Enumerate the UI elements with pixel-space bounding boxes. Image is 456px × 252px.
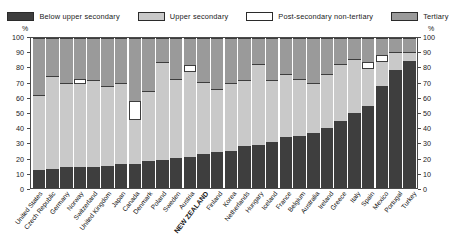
y-axis-unit-left: % [22,25,28,32]
y-tick-mark-right-90 [418,52,421,53]
segment-upper-secondary [184,71,197,157]
segment-upper-secondary [252,64,265,145]
segment-tertiary [184,38,197,65]
y-tick-left-70: 70 [4,79,24,88]
bar-korea[interactable] [225,38,238,188]
segment-tertiary [87,38,100,80]
segment-below-upper-secondary [307,133,320,189]
legend-label-tertiary: Tertiary [423,12,448,21]
bar-hungary[interactable] [252,38,265,188]
segment-upper-secondary [197,82,210,154]
bar-united-states[interactable] [33,38,46,188]
bar-italy[interactable] [348,38,361,188]
bar-turkey[interactable] [403,38,416,188]
segment-below-upper-secondary [238,146,251,188]
segment-tertiary [60,38,73,83]
segment-upper-secondary [156,62,169,160]
segment-tertiary [266,38,279,80]
segment-upper-secondary [101,86,114,166]
segment-upper-secondary [87,80,100,167]
segment-upper-secondary [211,89,224,152]
bar-belgium[interactable] [293,38,306,188]
segment-upper-secondary [129,119,142,164]
segment-upper-secondary [348,59,361,113]
segment-tertiary [252,38,265,64]
y-tick-mark-right-0 [418,189,421,190]
bar-japan[interactable] [115,38,128,188]
segment-tertiary [362,38,375,62]
segment-below-upper-secondary [101,166,114,189]
bar-australia[interactable] [307,38,320,188]
y-tick-mark-right-60 [418,98,421,99]
bar-greece[interactable] [334,38,347,188]
bar-denmark[interactable] [142,38,155,188]
segment-tertiary [129,38,142,101]
y-tick-left-60: 60 [4,94,24,103]
bar-portugal[interactable] [389,38,402,188]
x-axis-category-labels: United StatesCzech RepublicGermanyNorway… [30,190,418,252]
segment-below-upper-secondary [87,167,100,188]
bar-france[interactable] [280,38,293,188]
y-tick-mark-right-20 [418,159,421,160]
bar-poland[interactable] [156,38,169,188]
segment-tertiary [293,38,306,79]
bar-norway[interactable] [74,38,87,188]
chart-root: Below upper secondary Upper secondary Po… [0,0,456,252]
segment-upper-secondary [362,68,375,106]
bar-mexico[interactable] [376,38,389,188]
segment-below-upper-secondary [293,136,306,189]
y-tick-mark-right-10 [418,174,421,175]
bar-united-kingdom[interactable] [101,38,114,188]
y-tick-left-10: 10 [4,170,24,179]
segment-upper-secondary [33,95,46,170]
segment-tertiary [156,38,169,62]
bar-finland[interactable] [211,38,224,188]
y-tick-left-30: 30 [4,139,24,148]
bar-netherlands[interactable] [238,38,251,188]
segment-upper-secondary [293,79,306,136]
y-tick-mark-right-70 [418,83,421,84]
legend-label-upper-secondary: Upper secondary [170,12,229,21]
segment-tertiary [211,38,224,89]
segment-upper-secondary [389,52,402,70]
bar-new-zealand[interactable] [197,38,210,188]
segment-upper-secondary [225,83,238,151]
bar-czech-republic[interactable] [46,38,59,188]
segment-upper-secondary [60,83,73,167]
segment-below-upper-secondary [252,145,265,189]
plot-area [30,37,418,189]
bar-iceland[interactable] [266,38,279,188]
segment-tertiary [389,38,402,52]
y-tick-right-70: 70 [423,79,443,88]
bar-switzerland[interactable] [87,38,100,188]
legend-label-below-upper-secondary: Below upper secondary [39,12,119,21]
y-axis-unit-right: % [428,25,434,32]
chart-legend: Below upper secondary Upper secondary Po… [0,10,456,23]
segment-upper-secondary [115,83,128,164]
segment-upper-secondary [334,64,347,121]
bar-ireland[interactable] [321,38,334,188]
bar-sweden[interactable] [170,38,183,188]
segment-upper-secondary [280,74,293,137]
segment-upper-secondary [376,61,389,87]
y-tick-right-100: 100 [423,33,443,42]
bar-canada[interactable] [129,38,142,188]
segment-below-upper-secondary [376,86,389,188]
bar-germany[interactable] [60,38,73,188]
legend-label-post-secondary-non-tertiary: Post-secondary non-tertiary [278,12,373,21]
bar-austria[interactable] [184,38,197,188]
segment-upper-secondary [321,74,334,128]
segment-tertiary [376,38,389,55]
segment-below-upper-secondary [156,160,169,189]
segment-tertiary [238,38,251,80]
segment-upper-secondary [307,83,320,133]
segment-below-upper-secondary [280,137,293,188]
segment-below-upper-secondary [46,169,59,189]
segment-upper-secondary [403,52,416,61]
segment-below-upper-secondary [197,154,210,189]
segment-post-secondary-non-tertiary [129,101,142,119]
bar-spain[interactable] [362,38,375,188]
segment-tertiary [46,38,59,76]
segment-tertiary [403,38,416,52]
legend-item-tertiary: Tertiary [391,12,448,21]
